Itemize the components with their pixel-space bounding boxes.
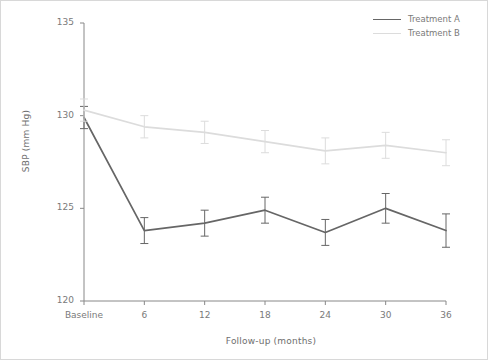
y-tick-label: 135	[40, 17, 74, 27]
legend-item-label: Treatment B	[408, 28, 460, 38]
x-tick-label: 6	[114, 310, 174, 320]
axis-tick-marks	[80, 23, 446, 305]
y-tick-label: 125	[40, 202, 74, 212]
data-series-group	[80, 99, 450, 247]
x-tick-label: 30	[356, 310, 416, 320]
axis-spines	[84, 23, 446, 301]
legend-item[interactable]: Treatment B	[373, 27, 481, 39]
x-tick-label: 12	[175, 310, 235, 320]
legend-item-label: Treatment A	[408, 14, 460, 24]
legend-line-swatch	[373, 33, 401, 34]
y-tick-label: 130	[40, 110, 74, 120]
y-axis-title: SBP (mm Hg)	[21, 86, 31, 196]
x-tick-label: 36	[416, 310, 476, 320]
legend-item[interactable]: Treatment A	[373, 13, 481, 25]
x-axis-title: Follow-up (months)	[161, 336, 381, 346]
legend-line-swatch	[373, 19, 401, 20]
x-tick-label: Baseline	[54, 310, 114, 320]
line-chart-plot	[1, 1, 488, 360]
x-tick-label: 24	[295, 310, 355, 320]
chart-figure: SBP (mm Hg) Follow-up (months) 120125130…	[0, 0, 488, 360]
x-tick-label: 18	[235, 310, 295, 320]
chart-legend: Treatment ATreatment B	[373, 13, 481, 41]
y-tick-label: 120	[40, 295, 74, 305]
